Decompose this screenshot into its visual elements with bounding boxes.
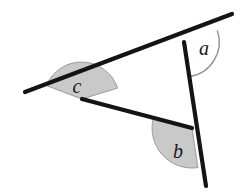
- angle-label-b: b: [173, 140, 183, 162]
- angle-label-c: c: [73, 75, 82, 97]
- geometry-figure: a c b: [0, 0, 245, 196]
- angle-label-a: a: [199, 37, 209, 59]
- figure-background: [0, 0, 245, 196]
